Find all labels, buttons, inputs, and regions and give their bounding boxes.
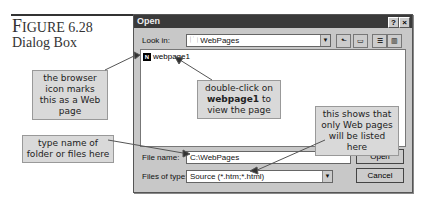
browser-icon: N: [143, 53, 151, 61]
look-in-select[interactable]: 🗀 WebPages ▼: [186, 34, 331, 47]
files-of-type-value: Source (*.htm;*.html): [190, 172, 264, 181]
list-view-icon[interactable]: ☰: [372, 34, 387, 48]
help-button[interactable]: ?: [388, 17, 399, 28]
file-name-label: File name:: [142, 153, 179, 162]
new-folder-icon[interactable]: ▭: [353, 34, 368, 48]
details-view-icon[interactable]: ▥: [387, 34, 402, 48]
file-name: webpage1: [153, 52, 190, 61]
figure-title: FIGURE 6.28: [12, 18, 93, 36]
up-folder-icon[interactable]: ⬑: [336, 34, 351, 48]
look-in-value: WebPages: [200, 36, 239, 45]
files-of-type-select[interactable]: Source (*.htm;*.html) ▼: [186, 170, 333, 183]
dialog-title: Open: [137, 16, 160, 26]
chevron-down-icon[interactable]: ▼: [322, 171, 332, 182]
cancel-button[interactable]: Cancel: [356, 168, 404, 183]
close-button[interactable]: ×: [399, 17, 410, 28]
look-in-label: Look in:: [142, 36, 170, 45]
file-item-webpage1[interactable]: N webpage1: [143, 52, 190, 61]
callout-double-click: double-click on webpage1 to view the pag…: [197, 80, 281, 119]
callout-bold-text: webpage1: [207, 94, 259, 104]
dialog-titlebar: Open ? ×: [134, 15, 412, 28]
files-of-type-label: Files of type:: [142, 172, 187, 181]
chevron-down-icon[interactable]: ▼: [320, 35, 330, 46]
callout-file-type: this shows that only Web pages will be l…: [315, 106, 399, 156]
figure-subtitle: Dialog Box: [12, 35, 77, 51]
folder-icon: 🗀: [190, 36, 200, 45]
callout-type-name: type name of folder or files here: [22, 135, 114, 163]
figure-title-initial: F: [12, 16, 22, 36]
callout-text: double-click on: [205, 83, 273, 93]
callout-browser-icon: the browser icon marks this as a Web pag…: [32, 70, 108, 120]
figure-title-rest: IGURE 6.28: [22, 20, 93, 35]
